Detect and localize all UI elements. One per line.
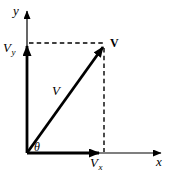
vector-diagram: y x V V Vy Vx θ (0, 0, 182, 184)
vx-label-base: V (90, 155, 98, 170)
y-axis-label: y (13, 4, 19, 17)
theta-label: θ (34, 141, 40, 153)
vector-v-mid-label: V (52, 84, 60, 97)
vy-label: Vy (3, 41, 15, 57)
x-axis-label: x (156, 155, 162, 168)
vx-label: Vx (90, 156, 102, 172)
vy-label-subscript: y (11, 47, 15, 57)
vector-v-tip-label: V (110, 37, 119, 49)
vy-label-base: V (3, 40, 11, 55)
vector-v-arrow (27, 47, 103, 153)
vx-label-subscript: x (98, 162, 102, 172)
